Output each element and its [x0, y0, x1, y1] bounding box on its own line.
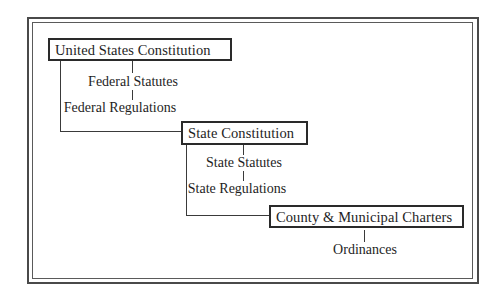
connector-state-to-state-statutes: [243, 145, 244, 155]
connector-us-to-federal-statutes: [132, 61, 133, 73]
connector-statutes-to-regulations: [132, 90, 133, 100]
connector-state-statutes-to-regulations: [243, 171, 244, 181]
federal-regulations-label: Federal Regulations: [64, 100, 176, 116]
connector-us-to-state-horizontal: [60, 131, 182, 132]
county-municipal-charters-box: County & Municipal Charters: [269, 205, 464, 228]
state-regulations-label: State Regulations: [188, 181, 286, 197]
connector-state-to-county-horizontal: [186, 215, 270, 216]
connector-us-to-state-vertical: [60, 61, 61, 132]
ordinances-label: Ordinances: [333, 242, 397, 258]
us-constitution-box: United States Constitution: [48, 38, 232, 61]
state-statutes-label: State Statutes: [206, 155, 282, 171]
connector-county-to-ordinances: [364, 230, 365, 242]
state-constitution-box: State Constitution: [181, 121, 308, 145]
federal-statutes-label: Federal Statutes: [88, 74, 178, 90]
connector-state-to-county-vertical: [186, 145, 187, 216]
